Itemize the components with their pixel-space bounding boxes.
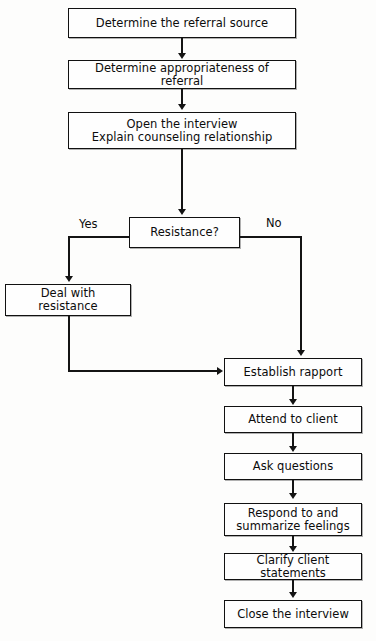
arrowhead-icon bbox=[289, 493, 297, 499]
node-label: Resistance? bbox=[150, 226, 219, 239]
connector-resistance-yes-horizontal bbox=[68, 236, 130, 238]
connector-resistance-no-horizontal bbox=[239, 236, 301, 238]
node-open-interview[interactable]: Open the interview Explain counseling re… bbox=[68, 112, 296, 149]
flowchart-canvas: Determine the referral source Determine … bbox=[0, 0, 376, 641]
node-attend-to-client[interactable]: Attend to client bbox=[224, 406, 362, 433]
node-label-line1: Open the interview bbox=[126, 118, 237, 131]
branch-label-no: No bbox=[266, 216, 282, 230]
arrowhead-icon bbox=[178, 104, 186, 110]
node-respond-summarize-feelings[interactable]: Respond to and summarize feelings bbox=[224, 503, 362, 536]
arrowhead-icon bbox=[289, 546, 297, 552]
arrowhead-icon bbox=[289, 446, 297, 452]
node-appropriateness-of-referral[interactable]: Determine appropriateness of referral bbox=[68, 60, 296, 89]
node-clarify-client-statements[interactable]: Clarify client statements bbox=[224, 553, 362, 580]
node-close-the-interview[interactable]: Close the interview bbox=[224, 600, 362, 628]
node-label: Ask questions bbox=[253, 460, 334, 473]
connector-rapport-to-attend bbox=[292, 386, 294, 400]
connector-attend-to-ask bbox=[292, 433, 294, 447]
arrowhead-icon bbox=[289, 399, 297, 405]
arrowhead-icon bbox=[178, 53, 186, 59]
node-label-line2: Explain counseling relationship bbox=[92, 131, 273, 144]
connector-ask-to-respond bbox=[292, 480, 294, 494]
arrowhead-icon bbox=[178, 209, 186, 215]
node-deal-with-resistance[interactable]: Deal with resistance bbox=[5, 284, 131, 316]
node-label: Determine the referral source bbox=[96, 17, 268, 30]
node-label: Close the interview bbox=[237, 608, 349, 621]
connector-resistance-yes-vertical bbox=[68, 236, 70, 278]
node-label: Determine appropriateness of referral bbox=[73, 62, 291, 88]
node-label: Attend to client bbox=[248, 413, 338, 426]
node-ask-questions[interactable]: Ask questions bbox=[224, 453, 362, 480]
arrowhead-icon bbox=[217, 367, 223, 375]
connector-resistance-no-vertical bbox=[300, 236, 302, 351]
connector-merge-to-rapport-horizontal bbox=[68, 370, 218, 372]
node-label: Deal with resistance bbox=[10, 287, 126, 313]
arrowhead-icon bbox=[65, 276, 73, 282]
node-establish-rapport[interactable]: Establish rapport bbox=[224, 358, 362, 386]
node-label-line2: summarize feelings bbox=[236, 520, 350, 533]
branch-label-yes: Yes bbox=[79, 217, 98, 231]
node-label: Establish rapport bbox=[244, 366, 343, 379]
node-label: Clarify client statements bbox=[229, 554, 357, 580]
connector-open-to-resistance bbox=[181, 149, 183, 211]
node-label-line1: Respond to and bbox=[248, 507, 339, 520]
node-referral-source[interactable]: Determine the referral source bbox=[68, 8, 296, 38]
arrowhead-icon bbox=[289, 592, 297, 598]
node-resistance-decision[interactable]: Resistance? bbox=[129, 217, 240, 248]
arrowhead-icon bbox=[297, 350, 305, 356]
connector-deal-to-merge-vertical bbox=[68, 316, 70, 371]
